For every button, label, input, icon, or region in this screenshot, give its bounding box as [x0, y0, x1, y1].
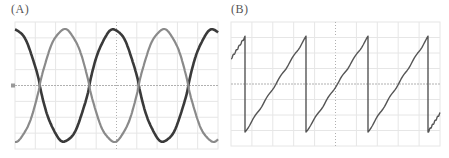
- oscilloscope-figure: [0, 0, 449, 158]
- trace-ground-marker: [11, 84, 15, 88]
- panel-b-plot: [231, 22, 440, 146]
- panel-a-plot: [11, 22, 218, 149]
